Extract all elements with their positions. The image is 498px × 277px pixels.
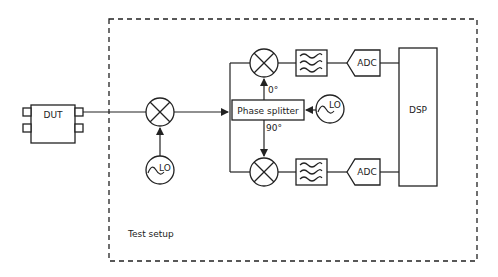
dut-pin [23,124,31,132]
lower-adc-label: ADC [357,167,376,177]
lower-mixer-icon [250,158,278,186]
dut-block: DUT [23,105,83,143]
phase-splitter-label: Phase splitter [237,106,299,116]
iq-test-setup-diagram: Test setup DUT LO Phase splitter 0° 90° [0,0,498,277]
test-setup-label: Test setup [127,229,174,239]
dut-label: DUT [43,110,63,120]
lo-label: LO [159,163,171,173]
upper-mixer-icon [250,49,278,77]
dut-pin [23,108,31,116]
phase-splitter-block: Phase splitter [232,100,304,120]
phase-90-label: 90° [266,123,282,133]
dsp-block: DSP [399,48,437,186]
dut-pin [75,108,83,116]
phase-0-label: 0° [268,85,278,95]
lo-oscillator-2-icon: LO [316,95,344,123]
upper-adc-block: ADC [347,50,380,76]
dut-pin [75,124,83,132]
dsp-label: DSP [409,105,428,115]
lo-2-label: LO [329,100,341,110]
lower-filter-icon [296,159,327,185]
upper-adc-label: ADC [357,58,376,68]
lo-oscillator-icon: LO [146,156,174,184]
input-mixer-icon [146,98,174,126]
lower-adc-block: ADC [347,159,380,185]
upper-filter-icon [296,50,327,76]
